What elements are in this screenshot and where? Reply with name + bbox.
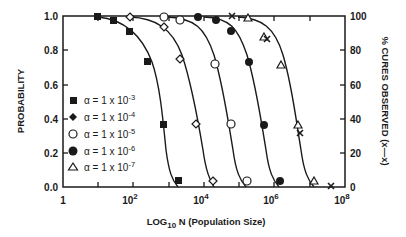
y2tick-40: 40	[350, 114, 362, 125]
curve-1e-6	[204, 17, 279, 187]
legend-label-1e-6: α = 1 x 10-6	[84, 144, 135, 157]
curve-1e-7	[238, 17, 314, 187]
legend-label-1e-7: α = 1 x 10-7	[84, 160, 135, 173]
ytick-0.6: 0.6	[44, 80, 58, 91]
xtick-1e4: 104	[193, 192, 209, 206]
legend-triangle-icon	[69, 163, 78, 170]
ytick-0.0: 0.0	[44, 182, 58, 193]
x-axis-label: LOG10 N (Population Size)	[147, 216, 266, 230]
y2tick-80: 80	[350, 45, 362, 56]
markers-x	[229, 13, 334, 189]
legend-filled-circle-icon	[69, 147, 78, 156]
xtick-1: 1	[60, 195, 66, 206]
legend-square-icon	[70, 97, 77, 104]
xtick-1e2: 102	[122, 192, 138, 206]
legend: α = 1 x 10-3 α = 1 x 10-4 α = 1 x 10-5 α…	[69, 93, 136, 173]
y2tick-20: 20	[350, 148, 362, 159]
ytick-1: 1.0	[44, 11, 58, 22]
y2-axis-label: % CURES OBSERVED (x—x)	[380, 36, 391, 165]
y2tick-0: 0	[350, 182, 356, 193]
legend-label-1e-4: α = 1 x 10-4	[84, 110, 135, 123]
legend-label-1e-3: α = 1 x 10-3	[84, 93, 135, 106]
y-axis-label: PROBABILITY	[15, 68, 26, 133]
ytick-0.4: 0.4	[44, 114, 58, 125]
legend-diamond-icon	[69, 113, 77, 121]
ytick-0.8: 0.8	[44, 45, 58, 56]
curve-1e-5	[166, 17, 246, 187]
xtick-1e6: 106	[263, 192, 279, 206]
chart: 1.0 0.8 0.6 0.4 0.2 0.0 100 80 60 40 20 …	[0, 0, 406, 237]
markers-triangle	[244, 14, 318, 184]
ytick-0.2: 0.2	[44, 148, 58, 159]
legend-label-1e-5: α = 1 x 10-5	[84, 127, 135, 140]
legend-open-circle-icon	[69, 130, 77, 138]
xtick-1e8: 108	[334, 192, 350, 206]
y2tick-100: 100	[350, 11, 367, 22]
y2tick-60: 60	[350, 80, 362, 91]
